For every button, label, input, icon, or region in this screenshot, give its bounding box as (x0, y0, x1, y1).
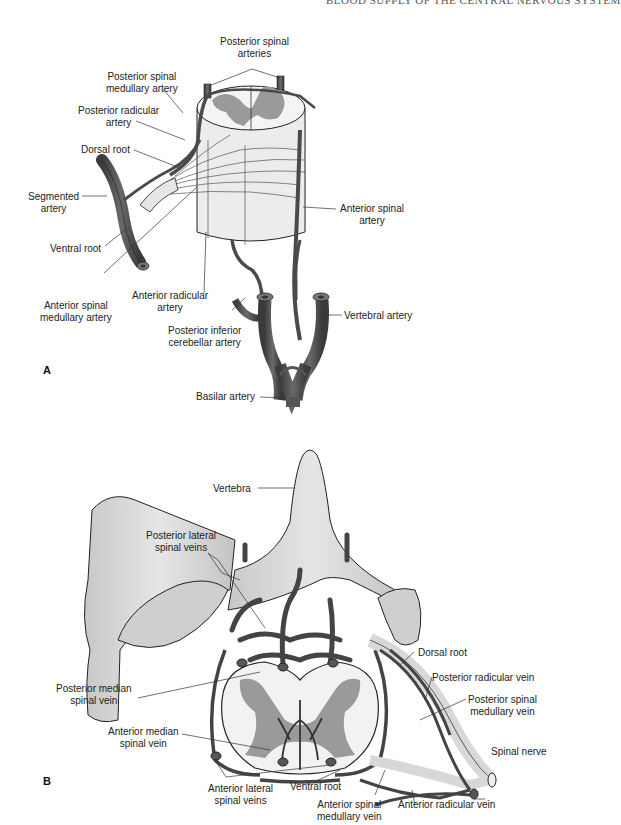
label-anterior-radicular-artery: Anterior radicular artery (132, 290, 208, 313)
label-segmented-artery: Segmented artery (28, 191, 79, 214)
label-posterior-spinal-arteries: Posterior spinal arteries (220, 36, 289, 59)
label-anterior-median-spinal-vein: Anterior median spinal vein (108, 726, 179, 749)
label-posterior-radicular-artery: Posterior radicular artery (78, 105, 159, 128)
label-posterior-spinal-medullary-vein: Posterior spinal medullary vein (468, 694, 537, 717)
label-anterior-spinal-medullary-vein: Anterior spinal medullary vein (317, 799, 381, 822)
label-spinal-nerve: Spinal nerve (491, 746, 547, 758)
label-anterior-lateral-spinal-veins: Anterior lateral spinal veins (208, 783, 273, 806)
label-basilar-artery: Basilar artery (196, 391, 255, 403)
label-dorsal-root-a: Dorsal root (81, 144, 130, 156)
label-vertebra: Vertebra (213, 483, 251, 495)
label-posterior-radicular-vein: Posterior radicular vein (432, 672, 534, 684)
label-dorsal-root-b: Dorsal root (418, 647, 467, 659)
label-ventral-root-a: Ventral root (50, 243, 101, 255)
label-anterior-spinal-medullary-artery: Anterior spinal medullary artery (40, 300, 112, 323)
panel-b-figure (84, 450, 496, 805)
label-ventral-root-b: Ventral root (290, 781, 341, 793)
label-posterior-inferior-cerebellar-artery: Posterior inferior cerebellar artery (168, 325, 241, 348)
label-posterior-spinal-medullary-artery: Posterior spinal medullary artery (106, 71, 178, 94)
label-anterior-radicular-vein: Anterior radicular vein (398, 799, 495, 811)
label-posterior-median-spinal-vein: Posterior median spinal vein (56, 683, 132, 706)
label-anterior-spinal-artery: Anterior spinal artery (340, 203, 404, 226)
panel-letter-a: A (43, 364, 51, 376)
label-vertebral-artery: Vertebral artery (344, 310, 412, 322)
panel-letter-b: B (43, 775, 51, 787)
label-posterior-lateral-spinal-veins: Posterior lateral spinal veins (146, 530, 216, 553)
